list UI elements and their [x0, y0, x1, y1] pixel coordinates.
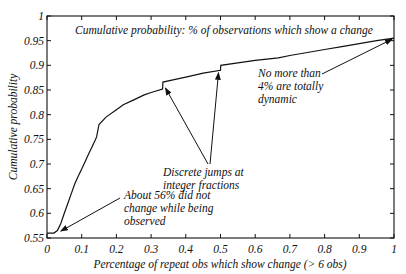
x-tick-label: 0.8	[317, 243, 332, 255]
arrow-jump-half	[210, 73, 219, 164]
x-tick-label: 0.2	[109, 243, 124, 255]
chart-title: Cumulative probability: % of observation…	[75, 24, 373, 37]
x-tick-label: 0.6	[248, 243, 263, 255]
x-tick-label: 0.9	[352, 243, 367, 255]
y-tick-label: 0.7	[30, 158, 46, 170]
arrow-56-percent	[61, 198, 120, 231]
y-tick-label: 0.9	[30, 59, 45, 71]
x-tick-label: 0.4	[179, 243, 194, 255]
x-axis-label: Percentage of repeat obs which show chan…	[92, 258, 346, 271]
y-tick-label: 0.85	[24, 84, 44, 96]
annotation-56-percent: About 56% did notchange while beingobser…	[123, 189, 214, 227]
annotation-discrete-jumps: Discrete jumps atinteger fractions	[162, 166, 245, 192]
y-tick-label: 1	[38, 10, 44, 22]
x-tick-label: 1	[391, 243, 397, 255]
cumulative-curve	[47, 38, 394, 233]
x-tick-label: 0.7	[283, 243, 299, 255]
x-tick-label: 0	[44, 243, 50, 255]
x-tick-label: 0.3	[144, 243, 159, 255]
x-tick-label: 0.5	[213, 243, 228, 255]
y-axis-label: Cumulative probability	[7, 73, 20, 180]
x-tick-label: 0.1	[75, 243, 89, 255]
y-tick-label: 0.95	[24, 35, 44, 47]
y-tick-label: 0.75	[24, 133, 44, 145]
y-tick-label: 0.8	[30, 109, 45, 121]
arrow-jump-third	[166, 88, 208, 164]
y-tick-label: 0.6	[30, 207, 45, 219]
annotations: About 56% did notchange while beingobser…	[61, 39, 392, 231]
y-tick-label: 0.55	[24, 232, 44, 244]
cumulative-probability-chart: 00.10.20.30.40.50.60.70.80.910.550.60.65…	[0, 0, 406, 274]
y-tick-label: 0.65	[24, 183, 44, 195]
annotation-dynamic: No more than4% are totallydynamic	[257, 67, 324, 106]
